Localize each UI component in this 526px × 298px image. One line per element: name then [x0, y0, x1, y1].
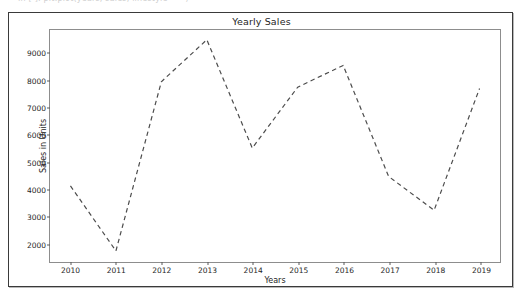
x-tick-mark	[207, 262, 208, 265]
plot-axes: Sales in Units Years 2000300040005000600…	[49, 29, 501, 263]
x-tick-label: 2018	[426, 266, 445, 275]
x-tick-mark	[70, 262, 71, 265]
y-tick-label: 2000	[27, 240, 46, 249]
x-tick-label: 2012	[152, 266, 171, 275]
x-tick-mark	[344, 262, 345, 265]
truncated-code-text: In [ ]: plt.plot(years, sales, linestyle…	[18, 0, 189, 3]
chart-title: Yearly Sales	[9, 16, 514, 27]
line-series-svg	[50, 30, 500, 262]
x-tick-label: 2015	[289, 266, 308, 275]
y-tick-label: 6000	[27, 131, 46, 140]
figure-frame: Yearly Sales Sales in Units Years 200030…	[8, 12, 513, 287]
y-tick-label: 8000	[27, 76, 46, 85]
x-tick-label: 2017	[381, 266, 400, 275]
x-tick-label: 2016	[335, 266, 354, 275]
plot-surface	[50, 30, 500, 262]
x-tick-mark	[161, 262, 162, 265]
y-tick-label: 9000	[27, 49, 46, 58]
y-tick-label: 3000	[27, 213, 46, 222]
x-tick-label: 2010	[61, 266, 80, 275]
x-axis-label: Years	[50, 276, 500, 285]
line-series-sales	[70, 40, 479, 251]
y-tick-label: 7000	[27, 104, 46, 113]
x-tick-label: 2011	[107, 266, 126, 275]
x-tick-label: 2019	[472, 266, 491, 275]
x-tick-mark	[390, 262, 391, 265]
x-tick-label: 2013	[198, 266, 217, 275]
x-tick-mark	[116, 262, 117, 265]
x-tick-label: 2014	[244, 266, 263, 275]
y-tick-label: 5000	[27, 158, 46, 167]
truncated-top-text-strip: In [ ]: plt.plot(years, sales, linestyle…	[0, 0, 526, 11]
y-tick-label: 4000	[27, 186, 46, 195]
x-tick-mark	[253, 262, 254, 265]
x-tick-mark	[298, 262, 299, 265]
x-tick-mark	[435, 262, 436, 265]
x-tick-mark	[481, 262, 482, 265]
